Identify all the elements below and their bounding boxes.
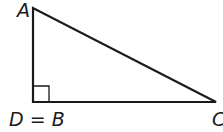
- vertex-label-c: C: [212, 108, 223, 130]
- vertex-label-a: A: [15, 0, 30, 21]
- triangle-shape: [33, 8, 216, 102]
- triangle-diagram: A D = B C: [0, 0, 223, 132]
- vertex-label-d-equals-b: D = B: [9, 108, 65, 130]
- right-angle-marker: [33, 86, 49, 102]
